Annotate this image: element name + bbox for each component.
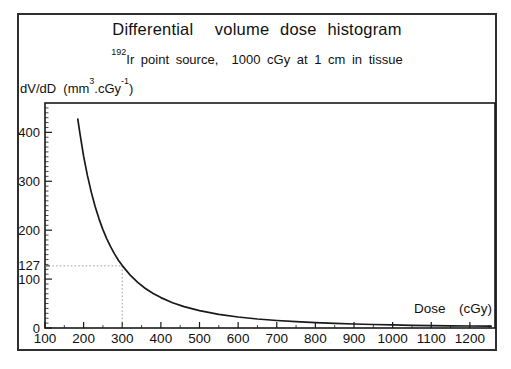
svg-text:900: 900 — [343, 331, 366, 346]
svg-text:300: 300 — [18, 174, 40, 189]
svg-text:500: 500 — [188, 331, 211, 346]
svg-text:200: 200 — [18, 223, 40, 238]
svg-text:1100: 1100 — [417, 331, 446, 346]
svg-text:700: 700 — [265, 331, 288, 346]
svg-text:100: 100 — [34, 331, 57, 346]
svg-text:127: 127 — [18, 258, 40, 273]
dose-histogram-plot: 0100200300400127100200300400500600700800… — [0, 0, 511, 369]
svg-text:1000: 1000 — [378, 331, 408, 346]
svg-text:400: 400 — [150, 331, 173, 346]
svg-text:200: 200 — [72, 331, 95, 346]
svg-text:800: 800 — [304, 331, 327, 346]
svg-text:1200: 1200 — [455, 331, 485, 346]
chart-area: 0100200300400127100200300400500600700800… — [0, 0, 511, 369]
svg-text:600: 600 — [227, 331, 250, 346]
figure: Differential volume dose histogram 192Ir… — [0, 0, 511, 369]
svg-text:100: 100 — [18, 272, 40, 287]
dose-curve — [78, 119, 491, 326]
svg-text:400: 400 — [18, 125, 40, 140]
svg-text:300: 300 — [111, 331, 134, 346]
